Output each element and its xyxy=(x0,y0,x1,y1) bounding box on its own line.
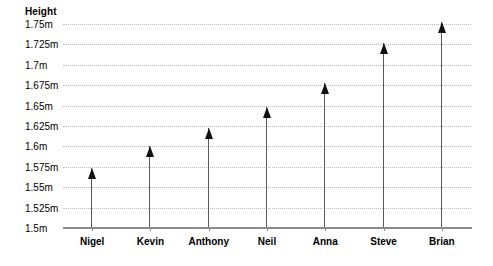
gridline xyxy=(63,208,471,209)
data-arrow-head xyxy=(146,146,154,157)
data-arrow-head xyxy=(438,22,446,33)
data-arrow-shaft xyxy=(266,107,267,228)
x-axis-category-label: Anthony xyxy=(188,236,229,247)
y-axis-tick-label: 1.625m xyxy=(25,121,58,132)
data-arrow-shaft xyxy=(441,22,442,228)
x-axis-tickmark xyxy=(267,227,268,231)
gridline xyxy=(63,126,471,127)
y-axis-tick-label: 1.575m xyxy=(25,161,58,172)
data-arrow-head xyxy=(263,107,271,118)
data-arrow-head xyxy=(205,128,213,139)
gridline xyxy=(63,146,471,147)
y-axis-tick-label: 1.725m xyxy=(25,39,58,50)
gridline xyxy=(63,167,471,168)
x-axis-category-label: Steve xyxy=(370,236,397,247)
plot-area xyxy=(63,24,471,228)
height-bar-chart: Height 1.5m1.525m1.55m1.575m1.6m1.625m1.… xyxy=(0,0,493,266)
gridline xyxy=(63,187,471,188)
x-axis-category-label: Kevin xyxy=(137,236,164,247)
y-axis-tick-label: 1.65m xyxy=(25,100,53,111)
gridline xyxy=(63,85,471,86)
data-arrow-shaft xyxy=(383,43,384,228)
gridline xyxy=(63,65,471,66)
y-axis-tick-label: 1.5m xyxy=(25,223,47,234)
x-axis-category-label: Brian xyxy=(429,236,455,247)
x-axis-tickmark xyxy=(209,227,210,231)
y-axis-tick-label: 1.55m xyxy=(25,182,53,193)
data-arrow-shaft xyxy=(149,146,150,228)
y-axis-tick-label: 1.6m xyxy=(25,141,47,152)
gridline xyxy=(63,24,471,25)
data-arrow-head xyxy=(88,168,96,179)
y-axis-tick-label: 1.675m xyxy=(25,80,58,91)
data-arrow-head xyxy=(321,83,329,94)
data-arrow-shaft xyxy=(208,128,209,228)
x-axis-category-label: Nigel xyxy=(80,236,104,247)
y-axis-tick-label: 1.7m xyxy=(25,59,47,70)
x-axis-tickmark xyxy=(384,227,385,231)
y-axis-tick-label: 1.75m xyxy=(25,19,53,30)
x-axis-tickmark xyxy=(92,227,93,231)
gridline xyxy=(63,44,471,45)
x-axis-category-label: Neil xyxy=(258,236,276,247)
data-arrow-shaft xyxy=(324,83,325,228)
y-axis-tick-label-group: 1.5m1.525m1.55m1.575m1.6m1.625m1.65m1.67… xyxy=(0,24,58,228)
data-arrow-head xyxy=(380,43,388,54)
x-axis-category-label: Anna xyxy=(313,236,338,247)
x-axis-tickmark xyxy=(442,227,443,231)
x-axis-tickmark xyxy=(325,227,326,231)
y-axis-title: Height xyxy=(25,6,57,17)
y-axis-tick-label: 1.525m xyxy=(25,202,58,213)
x-axis-tickmark xyxy=(150,227,151,231)
